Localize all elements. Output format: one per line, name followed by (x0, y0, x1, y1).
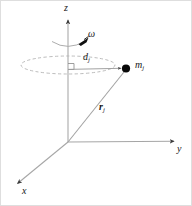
mass-mj-label: mj (135, 60, 144, 72)
diagram-canvas (0, 0, 192, 206)
position-vector-rj-label: rj (99, 102, 105, 114)
y-axis-label: y (177, 144, 181, 154)
omega-label: ω (88, 29, 95, 39)
omega-arc-arrowhead (79, 38, 89, 46)
rotating-body-diagram: z ω dj mj rj y x (0, 0, 192, 206)
right-angle-marker (68, 64, 74, 70)
x-axis-line (18, 142, 69, 184)
position-vector-rj (68, 72, 124, 142)
figure-border (1, 1, 192, 206)
mass-point-marker (122, 64, 130, 72)
z-axis-label: z (64, 3, 68, 13)
x-axis-label: x (22, 186, 26, 196)
y-axis-line (68, 141, 174, 142)
distance-dj-arrow (68, 68, 121, 69)
distance-dj-label: dj (83, 52, 90, 64)
